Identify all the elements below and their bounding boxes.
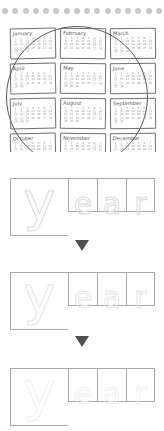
tracing-word-box-3[interactable]: y e a r [10, 368, 155, 426]
trace-letter-e: e [74, 379, 92, 409]
calendar-day-cell: 30 [119, 50, 124, 53]
tracing-word-box-1[interactable]: y e a r [10, 178, 155, 236]
calendar-month-card: November12345678910111213141516171819202… [60, 133, 106, 152]
trace-letter-a: a [103, 379, 121, 409]
calendar-day-cell: 23 [69, 46, 75, 49]
calendar-day-cell: 25 [80, 82, 86, 85]
trace-letter-r: r [134, 379, 146, 409]
calendar-day-cell: 31 [25, 50, 31, 53]
calendar-day-cell: 28 [148, 116, 153, 119]
decorative-dot [23, 8, 29, 14]
trace-letter-e: e [74, 189, 92, 219]
decorative-dot [146, 8, 152, 14]
calendar-day-cell: 29 [13, 85, 19, 88]
calendar-day-grid: 1234567891011121314151617181920212223242… [13, 106, 53, 123]
calendar-day-cell: 26 [36, 116, 42, 119]
calendar-day-cell: 29 [113, 120, 118, 123]
calendar-day-cell: 28 [97, 82, 103, 85]
calendar-day-cell: 29 [13, 50, 19, 53]
decorative-dot [64, 8, 70, 14]
trace-letter-y: y [24, 269, 56, 323]
decorative-dot [43, 8, 49, 14]
calendar-day-cell: 24 [25, 82, 31, 85]
calendar-day-cell: 24 [125, 117, 131, 120]
calendar-day-cell: 26 [36, 81, 42, 84]
letter-cell-y[interactable]: y [10, 272, 68, 330]
trace-letter-r: r [134, 189, 146, 219]
calendar-day-cell: 27 [92, 82, 98, 85]
calendar-day-cell: 30 [19, 50, 25, 53]
calendar-month-name: October [13, 135, 53, 142]
calendar-day-cell: 27 [42, 81, 48, 84]
decorative-dot [105, 8, 111, 14]
letter-cell-r[interactable]: r [126, 272, 155, 306]
calendar-day-cell: 28 [148, 151, 153, 152]
calendar-day-cell: 31 [74, 85, 80, 88]
calendar-month-name: February [63, 30, 104, 37]
calendar-day-cell: 28 [148, 81, 153, 84]
calendar-day-cell: 28 [48, 116, 54, 119]
letter-cell-e[interactable]: e [68, 368, 97, 402]
calendar-day-cell: 29 [63, 120, 69, 123]
calendar-day-cell: 28 [97, 47, 103, 50]
calendar-month-name: November [63, 135, 104, 142]
calendar-day-grid: 1234567891011121314151617181920212223242… [13, 141, 53, 152]
letter-cell-e[interactable]: e [68, 272, 97, 306]
calendar-month-card: March12345678910111213141516171819202122… [110, 28, 156, 59]
decorative-dot [84, 8, 90, 14]
decorative-dot [156, 8, 162, 14]
calendar-day-cell: 25 [30, 82, 36, 85]
calendar-day-cell: 25 [80, 117, 86, 120]
calendar-month-name: July [13, 100, 53, 107]
letter-cell-a[interactable]: a [97, 272, 126, 306]
letter-cell-a[interactable]: a [97, 178, 126, 212]
calendar-day-cell: 28 [148, 46, 153, 49]
calendar-day-cell: 30 [69, 120, 75, 123]
letter-cell-y[interactable]: y [10, 178, 68, 236]
calendar-day-cell: 28 [48, 81, 54, 84]
calendar-day-cell: 24 [74, 47, 80, 50]
calendar-day-cell: 27 [142, 82, 147, 85]
calendar-day-cell: 29 [113, 85, 118, 88]
letter-cell-y[interactable]: y [10, 368, 68, 426]
calendar-day-cell: 25 [130, 82, 135, 85]
calendar-month-name: August [63, 100, 104, 107]
letter-cell-r[interactable]: r [126, 368, 155, 402]
calendar-month-card: December12345678910111213141516171819202… [110, 133, 156, 152]
calendar-month-name: April [13, 65, 53, 72]
calendar-day-cell: 30 [119, 85, 124, 88]
trace-letter-a: a [103, 189, 121, 219]
decorative-dot [94, 8, 100, 14]
letter-cell-r[interactable]: r [126, 178, 155, 212]
calendar-day-cell: 26 [86, 47, 92, 50]
calendar-day-grid: 1234567891011121314151617181920212223242… [63, 71, 103, 88]
calendar-month-card: February12345678910111213141516171819202… [60, 28, 106, 60]
calendar-day-cell: 27 [142, 47, 147, 50]
calendar-month-grid: January123456789101112131415161718192021… [10, 28, 156, 152]
calendar-month-card: July123456789101112131415161718192021222… [10, 98, 57, 130]
calendar-day-grid: 1234567891011121314151617181920212223242… [63, 106, 103, 123]
calendar-day-cell: 31 [125, 50, 131, 53]
letter-cell-e[interactable]: e [68, 178, 97, 212]
calendar-month-card: May1234567891011121314151617181920212223… [60, 63, 106, 95]
calendar-day-cell: 29 [113, 50, 118, 53]
trace-letter-a: a [103, 283, 121, 313]
calendar-day-cell: 30 [119, 120, 124, 123]
calendar-day-cell: 23 [69, 151, 75, 152]
calendar-day-cell: 26 [36, 151, 42, 152]
calendar-month-card: October123456789101112131415161718192021… [10, 133, 57, 152]
calendar-month-card: April12345678910111213141516171819202122… [10, 63, 57, 95]
tracing-word-box-2[interactable]: y e a r [10, 272, 155, 330]
calendar-day-cell: 30 [69, 85, 75, 88]
calendar-day-grid: 1234567891011121314151617181920212223242… [13, 36, 53, 53]
letter-cell-a[interactable]: a [97, 368, 126, 402]
trace-letter-r: r [134, 283, 146, 313]
calendar-day-grid: 1234567891011121314151617181920212223242… [113, 141, 153, 152]
calendar-day-cell: 28 [48, 151, 54, 152]
calendar-day-grid: 1234567891011121314151617181920212223242… [113, 71, 153, 88]
decorative-dot [53, 8, 59, 14]
calendar-day-cell: 27 [92, 47, 98, 50]
calendar-month-card: September1234567891011121314151617181920… [110, 98, 156, 129]
calendar-day-cell: 31 [74, 120, 80, 123]
calendar-day-cell: 27 [42, 46, 48, 49]
